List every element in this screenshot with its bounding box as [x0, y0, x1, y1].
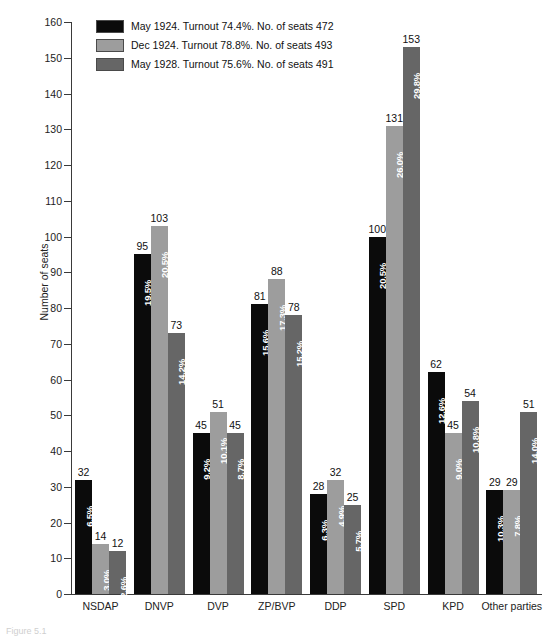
bar-percent-label: 2.6% [118, 577, 129, 598]
y-axis-tick-label: 160 [16, 17, 62, 27]
bar: 286.3% [310, 494, 327, 594]
y-axis-ticks: 0102030405060708090100110120130140150160 [0, 0, 62, 637]
bar: 122.6% [109, 551, 126, 594]
bar: 6212.6% [428, 372, 445, 594]
bar: 5114.0% [520, 412, 537, 594]
bar-percent-label: 6.5% [84, 506, 95, 527]
bar: 10020.5% [369, 237, 386, 595]
y-axis-tick-label: 140 [16, 89, 62, 99]
y-axis-tick [64, 129, 72, 130]
bar-value-label: 51 [514, 399, 543, 410]
bar: 458.7% [227, 433, 244, 594]
y-axis-tick [64, 415, 72, 416]
y-axis-tick [64, 94, 72, 95]
y-axis-tick [64, 594, 72, 595]
y-axis-tick [64, 58, 72, 59]
bar-value-label: 12 [103, 538, 132, 549]
y-axis-tick [64, 22, 72, 23]
bar-value-label: 51 [204, 399, 233, 410]
bar: 10320.5% [151, 226, 168, 594]
bar-percent-label: 20.5% [159, 252, 170, 278]
y-axis-tick-label: 130 [16, 124, 62, 134]
bar-group: 8115.6%8817.3%7815.2% [251, 22, 302, 594]
bar: 255.7% [344, 505, 361, 594]
bar-value-label: 153 [397, 34, 426, 45]
bar-percent-label: 8.7% [235, 459, 246, 480]
bar-group: 286.3%324.9%255.7% [310, 22, 361, 594]
bar: 13126.0% [386, 126, 403, 594]
bar: 143.0% [92, 544, 109, 594]
bar: 15329.8% [403, 47, 420, 594]
bar-percent-label: 14.2% [176, 359, 187, 385]
bar: 8817.3% [268, 279, 285, 594]
bar: 459.0% [445, 433, 462, 594]
bar-percent-label: 29.8% [411, 73, 422, 99]
bar-chart: May 1924. Turnout 74.4%. No. of seats 47… [0, 0, 547, 637]
y-axis-tick [64, 272, 72, 273]
y-axis-tick [64, 523, 72, 524]
plot-area: 326.5%143.0%122.6%9519.5%10320.5%7314.2%… [72, 22, 542, 594]
bar-percent-label: 5.7% [353, 531, 364, 552]
bar-value-label: 88 [262, 266, 291, 277]
bar-value-label: 73 [162, 320, 191, 331]
bar-value-label: 32 [321, 467, 350, 478]
y-axis-tick [64, 201, 72, 202]
y-axis-tick-label: 10 [16, 553, 62, 563]
y-axis-tick-label: 50 [16, 410, 62, 420]
figure-caption: Figure 5.1 [6, 626, 47, 636]
bar: 7815.2% [285, 315, 302, 594]
y-axis-tick [64, 380, 72, 381]
x-axis-line [71, 594, 542, 595]
bar-group: 326.5%143.0%122.6% [75, 22, 126, 594]
bar-value-label: 32 [69, 467, 98, 478]
bar-value-label: 103 [145, 213, 174, 224]
y-axis-tick [64, 451, 72, 452]
y-axis-tick [64, 165, 72, 166]
bar-group: 6212.6%459.0%5410.8% [428, 22, 479, 594]
bar-value-label: 25 [338, 492, 367, 503]
bar: 5110.1% [210, 412, 227, 594]
bar: 7314.2% [168, 333, 185, 594]
bar-value-label: 54 [456, 388, 485, 399]
bar-group: 10020.5%13126.0%15329.8% [369, 22, 420, 594]
y-axis-tick [64, 308, 72, 309]
bar-percent-label: 15.2% [294, 341, 305, 367]
y-axis-tick-label: 120 [16, 160, 62, 170]
y-axis-tick [64, 344, 72, 345]
bar-group: 9519.5%10320.5%7314.2% [134, 22, 185, 594]
bar: 297.8% [503, 490, 520, 594]
y-axis-tick [64, 487, 72, 488]
bar-value-label: 45 [221, 420, 250, 431]
y-axis-tick-label: 40 [16, 446, 62, 456]
y-axis-tick [64, 237, 72, 238]
y-axis-tick-label: 30 [16, 482, 62, 492]
y-axis-title: Number of seats [38, 202, 50, 362]
bar: 8115.6% [251, 304, 268, 594]
bar: 459.2% [193, 433, 210, 594]
bar: 9519.5% [134, 254, 151, 594]
bar-group: 2910.3%297.8%5114.0% [486, 22, 537, 594]
y-axis-tick [64, 558, 72, 559]
y-axis-tick-label: 0 [16, 589, 62, 599]
bar-value-label: 62 [422, 359, 451, 370]
y-axis-tick-label: 60 [16, 375, 62, 385]
y-axis-tick-label: 20 [16, 518, 62, 528]
x-axis-label: Other parties [472, 600, 547, 612]
bar-percent-label: 14.0% [529, 438, 540, 464]
bar: 5410.8% [462, 401, 479, 594]
bar: 2910.3% [486, 490, 503, 594]
bar-group: 459.2%5110.1%458.7% [193, 22, 244, 594]
bar-value-label: 78 [279, 302, 308, 313]
bar-percent-label: 10.8% [470, 427, 481, 453]
y-axis-tick-label: 150 [16, 53, 62, 63]
